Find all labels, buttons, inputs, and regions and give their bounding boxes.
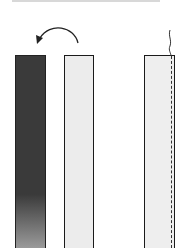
curved-arrow-icon xyxy=(36,28,78,44)
wavy-line-icon xyxy=(169,30,171,56)
annotations xyxy=(0,0,195,248)
